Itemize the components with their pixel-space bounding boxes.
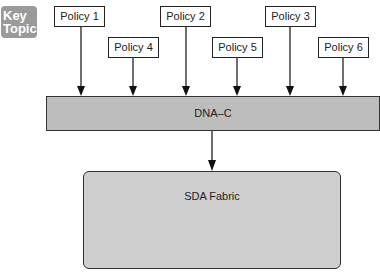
policy-5-box: Policy 5 — [212, 37, 263, 58]
policy-5-label: Policy 5 — [218, 41, 257, 53]
policy-4-label: Policy 4 — [114, 41, 153, 53]
dna-c-label: DNA–C — [194, 107, 231, 119]
policy-3-label: Policy 3 — [271, 10, 310, 22]
sda-fabric-label: SDA Fabric — [184, 190, 240, 202]
sda-fabric-box: SDA Fabric — [83, 171, 341, 269]
policy-4-box: Policy 4 — [108, 37, 159, 58]
policy-3-box: Policy 3 — [265, 6, 316, 27]
policy-6-label: Policy 6 — [324, 41, 363, 53]
policy-6-box: Policy 6 — [318, 37, 369, 58]
policy-2-label: Policy 2 — [166, 10, 205, 22]
policy-1-box: Policy 1 — [54, 6, 105, 27]
dna-c-controller-box: DNA–C — [46, 96, 380, 131]
policy-2-box: Policy 2 — [160, 6, 211, 27]
policy-1-label: Policy 1 — [60, 10, 99, 22]
